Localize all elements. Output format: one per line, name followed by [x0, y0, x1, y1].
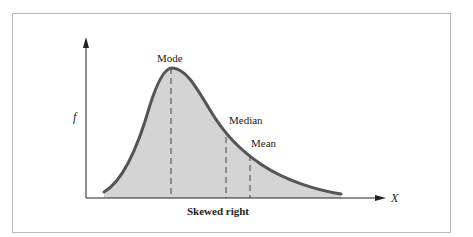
median-label: Median: [229, 114, 263, 126]
mean-label: Mean: [251, 137, 277, 149]
chart-caption: Skewed right: [187, 205, 249, 217]
skewed-distribution-chart: f X Mode Median Mean Skewed right: [0, 0, 473, 237]
y-axis-arrow-icon: [83, 37, 89, 48]
mode-label: Mode: [157, 52, 183, 64]
y-axis-label: f: [73, 110, 78, 124]
x-axis-arrow-icon: [375, 195, 386, 201]
x-axis-label: X: [390, 191, 399, 205]
